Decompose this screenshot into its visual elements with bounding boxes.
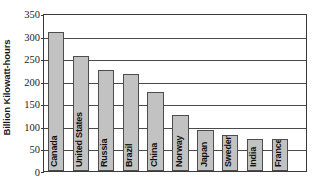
bar: Norway (172, 115, 188, 171)
bar: India (247, 139, 263, 171)
bar-label-text: Russia (100, 139, 109, 167)
bar-chart-figure: Billion Kilowatt-hours 05010015020025030… (0, 0, 313, 189)
y-tick-label: 100 (24, 121, 40, 132)
y-axis-tick (41, 172, 44, 173)
bar: France (272, 139, 288, 171)
y-tick-label: 350 (24, 9, 40, 20)
y-tick-label: 150 (24, 99, 40, 110)
y-tick-label: 50 (30, 144, 41, 155)
y-tick-label: 250 (24, 54, 40, 65)
bar-label-text: China (150, 143, 159, 167)
bar: China (147, 92, 163, 171)
bar-label-text: India (249, 147, 258, 167)
bar: Sweden (222, 135, 238, 171)
bar-label-text: Brazil (125, 144, 134, 167)
plot-area: CanadaUnited StatesRussiaBrazilChinaNorw… (43, 14, 307, 172)
bar-label-text: France (274, 139, 283, 167)
bar-label-text: Canada (50, 136, 59, 167)
bar-label-text: United States (75, 112, 84, 167)
bars-layer: CanadaUnited StatesRussiaBrazilChinaNorw… (44, 15, 306, 171)
bar-label-text: Japan (200, 142, 209, 167)
bar: Brazil (123, 74, 139, 171)
bar-label-text: Norway (175, 136, 184, 167)
y-axis-title-text: Billion Kilowatt-hours (2, 40, 13, 136)
y-tick-label: 200 (24, 76, 40, 87)
bar: United States (73, 56, 89, 171)
bar: Russia (98, 70, 114, 171)
bar: Japan (197, 130, 213, 171)
y-axis-tick-labels: 050100150200250300350 (12, 14, 40, 172)
bar: Canada (48, 32, 64, 171)
y-tick-label: 300 (24, 31, 40, 42)
bar-label-text: Sweden (224, 135, 233, 167)
y-tick-label: 0 (35, 167, 40, 178)
